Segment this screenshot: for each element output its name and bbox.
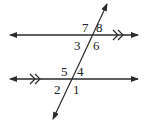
- angle-label-8: 8: [96, 20, 103, 35]
- angle-label-6: 6: [93, 38, 100, 53]
- angle-label-2: 2: [54, 82, 61, 97]
- angle-label-5: 5: [61, 64, 68, 79]
- angle-label-1: 1: [73, 82, 80, 97]
- angle-label-4: 4: [77, 64, 84, 79]
- angle-label-7: 7: [82, 20, 89, 35]
- angle-label-3: 3: [74, 38, 81, 53]
- parallel-lines-diagram: 7 8 3 6 5 4 2 1: [0, 0, 150, 122]
